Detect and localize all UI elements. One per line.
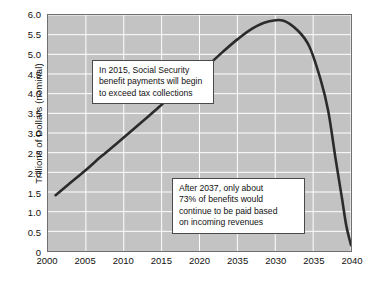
annotation-line: In 2015, Social Security	[99, 65, 208, 76]
annotation-line: 73% of benefits would	[179, 194, 299, 205]
chart-figure: Trillions of Dollars (nominal) 00.51.01.…	[0, 0, 365, 281]
y-axis-tick-label: 3.0	[28, 128, 41, 139]
x-axis-tick-label: 2035	[303, 255, 324, 266]
y-axis-tick-label: 4.5	[28, 68, 41, 79]
x-axis-tick-label: 2040	[341, 255, 362, 266]
annotation-line: continue to be paid based	[179, 206, 299, 217]
y-axis-tick-label: 6.0	[28, 9, 41, 20]
x-axis-tick-labels: 200020052010201520202035203020352040	[47, 255, 352, 271]
x-axis-tick-label: 2010	[113, 255, 134, 266]
annotation-line: benefit payments will begin	[99, 76, 208, 87]
y-axis-tick-labels: 00.51.01.52.02.53.03.54.04.55.05.56.0	[0, 14, 44, 252]
y-axis-tick-label: 1.0	[28, 207, 41, 218]
y-axis-tick-label: 0.5	[28, 227, 41, 238]
annotation-callout-2015: In 2015, Social Securitybenefit payments…	[92, 60, 214, 104]
x-axis-tick-label: 2015	[151, 255, 172, 266]
y-axis-tick-label: 2.5	[28, 147, 41, 158]
x-axis-tick-label: 2020	[189, 255, 210, 266]
annotation-line: to exceed tax collections	[99, 88, 208, 99]
y-axis-tick-label: 3.5	[28, 108, 41, 119]
y-axis-tick-label: 5.5	[28, 28, 41, 39]
x-axis-tick-label: 2030	[265, 255, 286, 266]
y-axis-tick-label: 2.0	[28, 167, 41, 178]
y-axis-tick-label: 1.5	[28, 187, 41, 198]
x-axis-tick-label: 2005	[75, 255, 96, 266]
y-axis-tick-label: 4.0	[28, 88, 41, 99]
annotation-line: After 2037, only about	[179, 183, 299, 194]
x-axis-tick-label: 2000	[36, 255, 57, 266]
annotation-callout-2037: After 2037, only about73% of benefits wo…	[172, 178, 305, 234]
y-axis-tick-label: 5.0	[28, 48, 41, 59]
x-axis-tick-label: 2035	[227, 255, 248, 266]
annotation-line: on incoming revenues	[179, 217, 299, 228]
